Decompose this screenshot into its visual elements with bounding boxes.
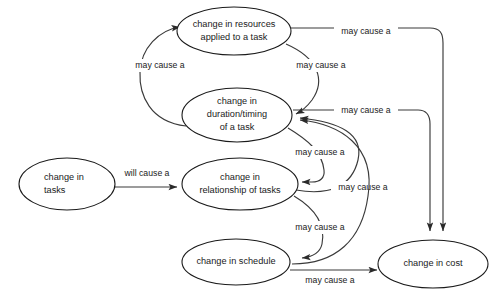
- node-label-tasks-line2: tasks: [44, 185, 66, 195]
- node-label-relationship-line1: change in: [220, 172, 260, 182]
- edge-label-resources-to-duration: may cause a: [296, 60, 345, 70]
- edge-path-resources-to-duration: [286, 44, 319, 114]
- node-change-in-relationship[interactable]: change in relationship of tasks: [182, 158, 298, 210]
- diagram-canvas: may cause a may cause a may cause a may …: [0, 0, 497, 304]
- edge-resources-to-duration: may cause a: [286, 44, 353, 114]
- edge-label-resources-to-cost: may cause a: [341, 26, 390, 36]
- node-ellipse-resources[interactable]: [177, 7, 291, 55]
- edge-label-duration-to-resources: may cause a: [135, 60, 184, 70]
- node-label-duration-line1: change in: [217, 96, 257, 106]
- node-change-in-schedule[interactable]: change in schedule: [182, 239, 290, 285]
- causal-loop-diagram: may cause a may cause a may cause a may …: [0, 0, 497, 304]
- node-change-in-cost[interactable]: change in cost: [378, 240, 488, 288]
- node-change-in-resources[interactable]: change in resources applied to a task: [177, 7, 291, 55]
- edge-schedule-to-cost: may cause a: [290, 270, 377, 287]
- edge-path-duration-to-resources: [140, 27, 186, 126]
- node-label-tasks-line1: change in: [44, 172, 84, 182]
- node-change-in-duration[interactable]: change in duration/timing of a task: [182, 88, 292, 142]
- node-label-duration-line2: duration/timing: [207, 109, 267, 119]
- edge-label-duration-to-relationship: may cause a: [295, 147, 344, 157]
- node-label-schedule: change in schedule: [196, 256, 275, 266]
- edge-label-schedule-to-cost: may cause a: [305, 275, 354, 285]
- edge-label-relationship-to-schedule: may cause a: [295, 222, 344, 232]
- node-label-duration-line3: of a task: [220, 122, 255, 132]
- edge-duration-to-relationship: may cause a: [288, 128, 352, 182]
- node-label-cost: change in cost: [403, 258, 463, 268]
- node-ellipse-relationship[interactable]: [182, 158, 298, 210]
- edge-label-duration-to-cost: may cause a: [341, 105, 390, 115]
- edge-tasks-to-relationship: will cause a: [115, 167, 177, 187]
- edge-label-tasks-to-relationship: will cause a: [124, 168, 170, 178]
- edge-label-relationship-to-duration: may cause a: [338, 182, 387, 192]
- node-label-resources-line2: applied to a task: [201, 32, 268, 42]
- node-label-resources-line1: change in resources: [193, 19, 276, 29]
- node-change-in-tasks[interactable]: change in tasks: [19, 158, 115, 210]
- node-ellipse-tasks[interactable]: [19, 158, 115, 210]
- node-label-relationship-line2: relationship of tasks: [199, 185, 281, 195]
